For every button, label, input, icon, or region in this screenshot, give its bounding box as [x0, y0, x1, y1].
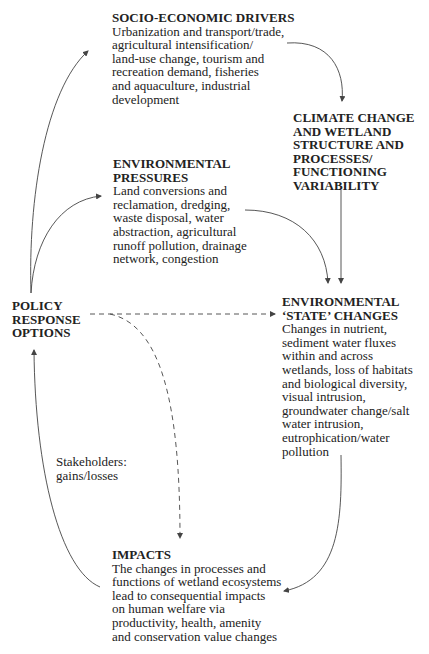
arrow-socio-to-climate: [287, 43, 342, 101]
node-policy-response-options: POLICY RESPONSE OPTIONS: [12, 299, 81, 340]
node-title: ENVIRONMENTAL ‘STATE’ CHANGES: [282, 295, 413, 322]
arrow-policy-to-socio-economic: [31, 51, 88, 293]
node-title: ENVIRONMENTAL PRESSURES: [113, 157, 247, 184]
node-environmental-state-changes: ENVIRONMENTAL ‘STATE’ CHANGES Changes in…: [282, 295, 413, 458]
node-title: SOCIO-ECONOMIC DRIVERS: [112, 11, 294, 25]
node-impacts: IMPACTS The changes in processes and fun…: [112, 548, 281, 643]
node-title: POLICY RESPONSE OPTIONS: [12, 299, 81, 340]
node-environmental-pressures: ENVIRONMENTAL PRESSURES Land conversions…: [113, 157, 247, 266]
node-body: Changes in nutrient, sediment water flux…: [282, 322, 413, 458]
node-body: Urbanization and transport/trade, agricu…: [112, 25, 294, 107]
node-title: IMPACTS: [112, 548, 281, 562]
node-title: CLIMATE CHANGE AND WETLAND STRUCTURE AND…: [293, 111, 414, 193]
node-socio-economic-drivers: SOCIO-ECONOMIC DRIVERS Urbanization and …: [112, 11, 294, 106]
arrow-state-to-impacts: [284, 455, 341, 591]
arrow-pressures-to-state: [245, 210, 328, 283]
arrow-policy-to-pressures: [31, 196, 101, 293]
node-body: Land conversions and reclamation, dredgi…: [113, 184, 247, 266]
node-body: The changes in processes and functions o…: [112, 562, 281, 644]
node-climate-change: CLIMATE CHANGE AND WETLAND STRUCTURE AND…: [293, 111, 414, 193]
edge-label-stakeholders: Stakeholders: gains/losses: [56, 455, 127, 482]
arrow-policy-to-impacts-dashed: [110, 314, 180, 538]
